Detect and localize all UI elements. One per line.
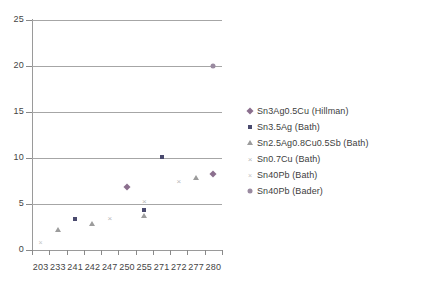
- legend-marker-icon: [243, 136, 257, 150]
- data-point: [211, 64, 216, 69]
- gridline: [32, 66, 222, 67]
- marker-circle: [248, 189, 253, 194]
- x-tick: [118, 250, 119, 255]
- legend-label: Sn40Pb (Bath): [257, 170, 317, 180]
- data-point: [37, 238, 44, 245]
- x-axis-line: [32, 250, 222, 251]
- data-point: [73, 217, 77, 221]
- x-tick: [205, 250, 206, 255]
- data-point: [123, 184, 130, 191]
- y-axis-label: 5: [2, 199, 24, 208]
- legend-label: Sn2.5Ag0.8Cu0.5Sb (Bath): [257, 138, 368, 148]
- x-tick: [136, 250, 137, 255]
- y-tick: [26, 204, 32, 205]
- data-point: [55, 227, 61, 232]
- legend-item[interactable]: Sn0.7Cu (Bath): [243, 151, 433, 167]
- legend-marker-icon: [243, 152, 257, 166]
- y-axis-label: 10: [2, 153, 24, 162]
- x-tick: [187, 250, 188, 255]
- data-point: [160, 155, 164, 159]
- y-tick: [26, 20, 32, 21]
- legend-label: Sn3Ag0.5Cu (Hillman): [257, 106, 349, 116]
- gridline: [32, 158, 222, 159]
- legend-item[interactable]: Sn40Pb (Bath): [243, 167, 433, 183]
- x-tick: [67, 250, 68, 255]
- legend-item[interactable]: Sn3.5Ag (Bath): [243, 119, 433, 135]
- y-axis-label: 0: [2, 245, 24, 254]
- legend-label: Sn3.5Ag (Bath): [257, 122, 320, 132]
- gridline: [32, 20, 222, 21]
- legend-item[interactable]: Sn3Ag0.5Cu (Hillman): [243, 103, 433, 119]
- legend-marker-icon: [243, 120, 257, 134]
- x-tick: [49, 250, 50, 255]
- legend-marker-icon: [243, 168, 257, 182]
- legend-label: Sn0.7Cu (Bath): [257, 154, 320, 164]
- x-tick: [170, 250, 171, 255]
- x-tick: [101, 250, 102, 255]
- marker-square: [248, 125, 252, 129]
- legend-item[interactable]: Sn2.5Ag0.8Cu0.5Sb (Bath): [243, 135, 433, 151]
- scatter-chart: 0510152025 20323324124224725025527127227…: [0, 0, 439, 293]
- data-point: [175, 178, 182, 185]
- data-point: [141, 198, 148, 205]
- gridline: [32, 204, 222, 205]
- marker-cross: [247, 156, 254, 163]
- x-tick: [84, 250, 85, 255]
- marker-triangle: [247, 140, 253, 145]
- data-point: [89, 221, 95, 226]
- y-axis-label: 15: [2, 107, 24, 116]
- legend-label: Sn40Pb (Bader): [257, 186, 323, 196]
- y-tick: [26, 158, 32, 159]
- x-tick: [32, 250, 33, 255]
- y-tick: [26, 112, 32, 113]
- marker-diamond: [246, 107, 253, 114]
- y-axis-label: 20: [2, 61, 24, 70]
- data-point: [141, 213, 147, 218]
- data-point: [193, 175, 199, 180]
- marker-x-thin: [247, 172, 254, 179]
- x-tick: [222, 250, 223, 255]
- x-axis-label: 280: [199, 262, 227, 272]
- data-point: [106, 214, 113, 221]
- y-axis-label: 25: [2, 15, 24, 24]
- data-point: [142, 208, 146, 212]
- y-tick: [26, 66, 32, 67]
- legend-marker-icon: [243, 184, 257, 198]
- gridline: [32, 112, 222, 113]
- legend-item[interactable]: Sn40Pb (Bader): [243, 183, 433, 199]
- x-tick: [153, 250, 154, 255]
- data-point: [210, 170, 217, 177]
- y-axis-line: [32, 19, 33, 251]
- legend-marker-icon: [243, 104, 257, 118]
- chart-legend: Sn3Ag0.5Cu (Hillman)Sn3.5Ag (Bath)Sn2.5A…: [243, 103, 433, 199]
